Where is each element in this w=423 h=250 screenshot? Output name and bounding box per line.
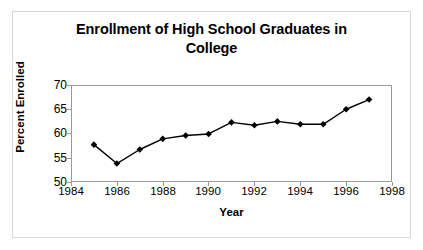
series-line-enrollment: [94, 100, 369, 164]
data-point-marker: [182, 132, 189, 139]
x-tick-label-1992: 1992: [231, 185, 277, 197]
x-tick-label-1994: 1994: [277, 185, 323, 197]
line-series-plot: [71, 85, 392, 182]
data-point-marker: [205, 131, 212, 138]
data-point-marker: [136, 146, 143, 153]
chart-figure: Enrollment of High School Graduates in C…: [0, 0, 423, 250]
data-point-marker: [274, 118, 281, 125]
x-tick-label-1984: 1984: [48, 185, 94, 197]
data-point-marker: [228, 119, 235, 126]
x-tick-label-1998: 1998: [369, 185, 415, 197]
data-point-marker: [366, 96, 373, 103]
x-axis-title: Year: [71, 206, 392, 218]
x-tick-label-1996: 1996: [323, 185, 369, 197]
data-point-marker: [251, 122, 258, 129]
data-point-marker: [297, 121, 304, 128]
data-point-marker: [159, 136, 166, 143]
x-tick-label-1986: 1986: [94, 185, 140, 197]
series-markers-group: [91, 96, 373, 167]
x-tick-label-1990: 1990: [185, 185, 231, 197]
x-tick-label-1988: 1988: [140, 185, 186, 197]
